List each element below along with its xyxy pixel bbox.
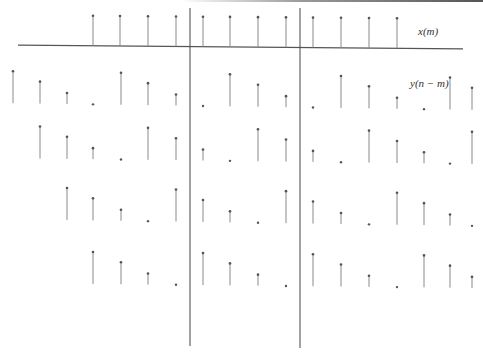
y-stem-marker [175,93,178,96]
y-stem-marker [175,137,178,140]
y-stem-marker [202,199,205,202]
y-zero-dot [92,103,94,105]
y-stem-marker [471,276,474,279]
y-zero-dot [175,284,177,286]
y-zero-dot [257,222,259,224]
y-stem-marker [66,92,69,95]
y-stem-marker [423,254,426,257]
y-stem-marker [340,212,343,215]
y-stem-marker [471,87,474,90]
y-stem-marker [396,140,399,143]
y-stem-marker [175,188,178,191]
y-zero-dot [312,106,314,108]
y-stem-marker [340,75,343,78]
y-stem-marker [39,125,42,128]
y-stem-marker [229,262,232,265]
y-stem-marker [396,191,399,194]
y-zero-dot [202,105,204,107]
y-stem-marker [120,71,123,74]
y-stem-marker [285,190,288,193]
y-zero-dot [147,220,149,222]
y-zero-dot [368,223,370,225]
y-stem-marker [257,128,260,131]
x-stem-marker [396,17,399,20]
y-stem-marker [12,70,15,73]
y-stem-marker [229,73,232,76]
y-stem-marker [368,129,371,132]
y-stem-marker [229,210,232,213]
y-stem-marker [423,151,426,154]
y-zero-dot [423,108,425,110]
x-m-label: x(m) [418,25,438,37]
y-zero-dot [229,160,231,162]
y-stem-marker [449,213,452,216]
x-stem-marker [285,16,288,19]
y-zero-dot [396,286,398,288]
y-stem-marker [340,263,343,266]
y-stem-marker [471,131,474,134]
y-stem-marker [285,138,288,141]
y-stem-marker [92,251,95,254]
x-stem-marker [175,15,178,18]
y-stem-marker [92,147,95,150]
y-stem-marker [92,197,95,200]
x-stem-marker [119,15,122,18]
y-stem-marker [257,83,260,86]
y-zero-dot [340,161,342,163]
x-stem-marker [229,16,232,19]
y-stem-marker [120,208,123,211]
y-n-minus-m-label: y(n − m) [410,77,449,89]
x-stem-marker [147,15,150,18]
x-stem-marker [92,14,95,17]
x-stem-marker [312,16,315,19]
y-stem-marker [39,80,42,83]
y-stem-marker [449,264,452,267]
y-stem-marker [66,136,69,139]
y-zero-dot [120,158,122,160]
y-stem-marker [368,275,371,278]
y-stem-marker [312,200,315,203]
y-stem-marker [449,76,452,79]
x-axis-line [18,45,463,49]
y-stem-marker [202,252,205,255]
y-stem-marker [202,148,205,151]
y-stem-marker [285,95,288,98]
x-stem-marker [340,17,343,20]
y-stem-marker [66,187,69,190]
y-stem-marker [147,127,150,130]
y-zero-dot [471,225,473,227]
y-stem-marker [368,85,371,88]
y-stem-marker [120,261,123,264]
y-stem-marker [312,253,315,256]
y-stem-marker [257,273,260,276]
y-stem-marker [147,82,150,85]
y-stem-marker [396,96,399,99]
y-stem-marker [147,272,150,275]
y-stem-marker [423,202,426,205]
x-stem-marker [257,16,260,19]
x-stem-marker [368,17,371,20]
y-stem-marker [312,150,315,153]
y-zero-dot [285,285,287,287]
convolution-diagram [0,0,483,359]
x-stem-marker [202,15,205,18]
y-zero-dot [449,162,451,164]
